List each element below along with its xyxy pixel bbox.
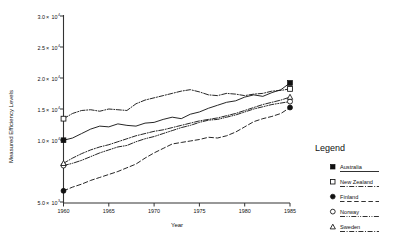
legend-item-sweden[interactable]: Sweden — [330, 224, 379, 232]
y-tick-exponent: 4 — [58, 137, 60, 141]
y-tick-mantissa: 1.5 — [38, 107, 46, 113]
open-square-icon — [331, 180, 336, 185]
legend-item-norway[interactable]: Norway — [330, 209, 379, 217]
y-tick-times: × — [46, 138, 49, 144]
y-tick-mantissa: 2.5 — [38, 45, 46, 51]
y-tick-exponent: 3 — [58, 199, 60, 203]
filled-circle-icon — [330, 194, 335, 199]
legend-item-label: Finland — [340, 194, 358, 200]
open-circle-marker — [288, 99, 293, 104]
y-tick-base: 10 — [52, 138, 58, 144]
legend-item-australia[interactable]: Australia — [331, 164, 380, 172]
legend-item-label: New Zealand — [340, 179, 373, 185]
series-layer — [64, 83, 291, 191]
x-tick-label: 1985 — [284, 208, 296, 214]
x-tick-label: 1960 — [58, 208, 70, 214]
legend-item-finland[interactable]: Finland — [330, 194, 379, 202]
filled-circle-marker — [288, 105, 293, 110]
open-triangle-icon — [330, 224, 335, 229]
y-axis-tick-labels: 3.0 × 10 4 2.5 × 10 4 2.0 × 10 4 1.5 × 1… — [38, 13, 61, 206]
filled-square-marker — [61, 138, 66, 143]
y-tick-label: 5.0 × 10 3 — [38, 199, 61, 206]
efficiency-line-chart: Measured Efficiency Levels 3.0 × 10 4 2.… — [0, 0, 396, 244]
y-tick-label: 1.0 × 10 4 — [38, 137, 61, 144]
open-circle-icon — [330, 209, 335, 214]
x-tick-label: 1980 — [239, 208, 251, 214]
legend-title: Legend — [315, 143, 345, 153]
y-tick-times: × — [46, 200, 49, 206]
y-tick-exponent: 4 — [58, 13, 60, 17]
y-tick-label: 3.0 × 10 4 — [38, 13, 61, 20]
x-tick-label: 1970 — [148, 208, 160, 214]
y-tick-times: × — [46, 76, 49, 82]
x-tick-label: 1975 — [193, 208, 205, 214]
y-axis-title: Measured Efficiency Levels — [8, 90, 14, 163]
y-tick-mantissa: 1.0 — [38, 138, 46, 144]
y-tick-mantissa: 3.0 — [38, 14, 46, 20]
y-tick-base: 10 — [52, 200, 58, 206]
y-tick-times: × — [46, 107, 49, 113]
x-tick-label: 1965 — [103, 208, 115, 214]
y-tick-times: × — [46, 45, 49, 51]
x-axis-title: Year — [171, 222, 183, 228]
series-line-finland — [64, 108, 291, 191]
y-tick-exponent: 4 — [58, 75, 60, 79]
legend: Legend Australia New Zealand Finland Nor… — [315, 143, 379, 232]
y-tick-mantissa: 2.0 — [38, 76, 46, 82]
open-triangle-marker — [287, 94, 292, 99]
y-tick-exponent: 4 — [58, 44, 60, 48]
legend-item-label: Norway — [340, 209, 359, 215]
y-tick-label: 2.0 × 10 4 — [38, 75, 61, 82]
y-tick-base: 10 — [52, 14, 58, 20]
y-tick-base: 10 — [52, 45, 58, 51]
open-square-marker — [61, 116, 66, 121]
x-axis-tick-labels: 1960 1965 1970 1975 1980 1985 — [58, 208, 297, 214]
filled-circle-marker — [61, 188, 66, 193]
series-line-norway — [64, 102, 291, 166]
legend-item-label: Sweden — [340, 224, 360, 230]
series-line-australia — [64, 83, 291, 140]
legend-item-label: Australia — [340, 164, 363, 170]
open-square-marker — [288, 87, 293, 92]
y-tick-label: 1.5 × 10 4 — [38, 106, 61, 113]
y-tick-label: 2.5 × 10 4 — [38, 44, 61, 51]
y-tick-exponent: 4 — [58, 106, 60, 110]
series-line-new-zealand — [64, 89, 291, 119]
y-tick-base: 10 — [52, 107, 58, 113]
y-tick-times: × — [46, 14, 49, 20]
y-tick-mantissa: 5.0 — [38, 200, 46, 206]
filled-square-marker — [288, 81, 293, 86]
open-triangle-marker — [61, 161, 66, 166]
y-tick-base: 10 — [52, 76, 58, 82]
filled-square-icon — [331, 165, 336, 170]
endpoint-marker-layer — [61, 81, 293, 194]
legend-item-new-zealand[interactable]: New Zealand — [331, 179, 380, 187]
